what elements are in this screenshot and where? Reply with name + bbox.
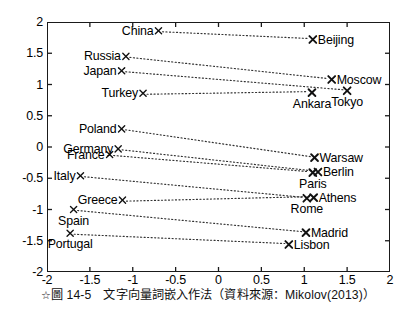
country-label: Italy — [53, 169, 75, 182]
capital-label: Berlin — [323, 166, 354, 179]
country-label: China — [122, 24, 154, 37]
country-label: Poland — [79, 122, 117, 135]
capital-label: Paris — [299, 178, 326, 191]
country-label: Portugal — [48, 238, 93, 251]
capital-label: Athens — [319, 191, 357, 204]
capital-label: Beijing — [318, 33, 354, 46]
star-icon: ☆ — [41, 289, 51, 301]
country-label: Greece — [78, 194, 118, 207]
country-label: Spain — [58, 215, 89, 228]
country-label: Turkey — [102, 87, 139, 100]
figure-container: 21.510.50-0.5-1-1.5-2 -2-1.5-1-0.500.511… — [0, 0, 416, 318]
country-label: Japan — [84, 64, 117, 77]
capital-label: Warsaw — [320, 151, 363, 164]
country-label: France — [67, 148, 105, 161]
capital-label: Moscow — [337, 73, 382, 86]
caption-text: 圖 14-5 文字向量詞嵌入作法（資料來源：Mikolov(2013)） — [51, 288, 375, 302]
capital-label: Rome — [291, 203, 323, 216]
capital-label: Ankara — [293, 98, 331, 111]
country-label: Russia — [84, 50, 121, 63]
capital-label: Lisbon — [294, 238, 330, 251]
data-point-labels: ChinaBeijingRussiaMoscowJapanTokyoTurkey… — [0, 0, 416, 318]
figure-caption: ☆圖 14-5 文字向量詞嵌入作法（資料來源：Mikolov(2013)） — [0, 287, 416, 303]
capital-label: Tokyo — [331, 96, 363, 109]
